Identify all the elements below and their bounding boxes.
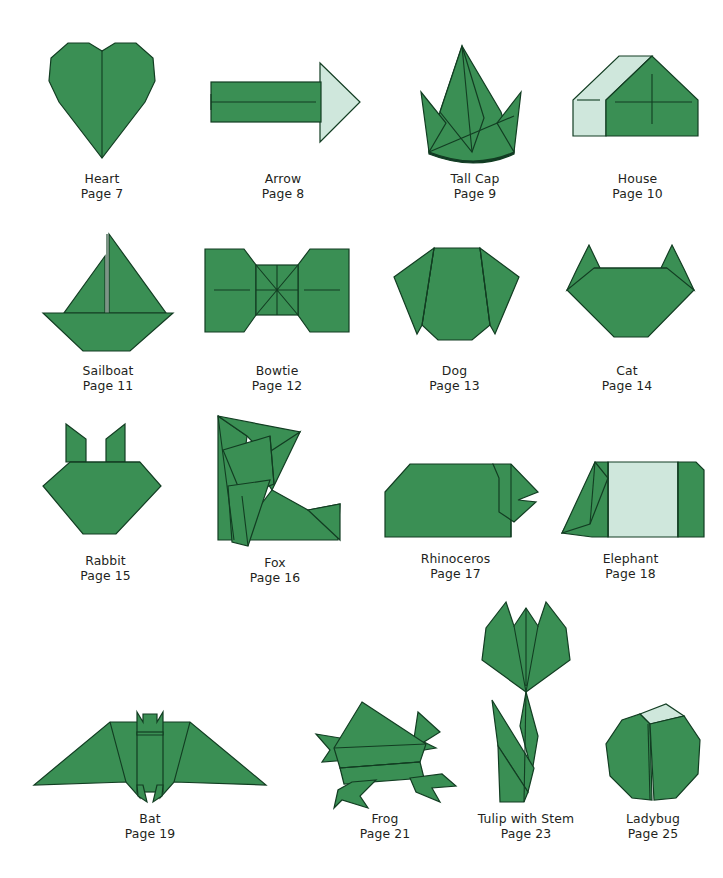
model-name: Elephant	[603, 552, 659, 566]
caption-bowtie: Bowtie Page 12	[252, 364, 302, 394]
model-name: Sailboat	[82, 364, 133, 378]
model-page: Page 23	[478, 827, 574, 841]
model-card-arrow[interactable]: Arrow Page 8	[198, 30, 368, 202]
model-name: Dog	[429, 364, 479, 378]
model-card-frog[interactable]: Frog Page 21	[300, 690, 470, 842]
elephant-origami-icon	[548, 440, 713, 550]
model-name: Rhinoceros	[421, 552, 491, 566]
model-name: Fox	[250, 556, 300, 570]
model-name: Tall Cap	[451, 172, 500, 186]
model-page: Page 7	[81, 187, 123, 201]
caption-cat: Cat Page 14	[602, 364, 652, 394]
model-page: Page 9	[451, 187, 500, 201]
model-card-heart[interactable]: Heart Page 7	[22, 30, 182, 202]
caption-heart: Heart Page 7	[81, 172, 123, 202]
caption-frog: Frog Page 21	[360, 812, 410, 842]
caption-rhinoceros: Rhinoceros Page 17	[421, 552, 491, 582]
caption-tulip: Tulip with Stem Page 23	[478, 812, 574, 842]
model-card-house[interactable]: House Page 10	[555, 30, 720, 202]
model-page: Page 8	[262, 187, 304, 201]
model-name: Bat	[125, 812, 175, 826]
model-page: Page 14	[602, 379, 652, 393]
frog-origami-icon	[300, 690, 470, 810]
model-page: Page 12	[252, 379, 302, 393]
caption-bat: Bat Page 19	[125, 812, 175, 842]
rhinoceros-origami-icon	[368, 440, 543, 550]
cat-origami-icon	[542, 222, 712, 362]
model-name: Frog	[360, 812, 410, 826]
model-name: Tulip with Stem	[478, 812, 574, 826]
caption-house: House Page 10	[612, 172, 662, 202]
bowtie-origami-icon	[192, 222, 362, 362]
model-name: Bowtie	[252, 364, 302, 378]
arrow-origami-icon	[198, 30, 368, 170]
fox-origami-icon	[190, 404, 360, 554]
model-card-fox[interactable]: Fox Page 16	[190, 404, 360, 586]
heart-origami-icon	[32, 30, 172, 170]
model-card-ladybug[interactable]: Ladybug Page 25	[588, 690, 718, 842]
model-card-dog[interactable]: Dog Page 13	[372, 222, 537, 394]
model-card-rhinoceros[interactable]: Rhinoceros Page 17	[368, 440, 543, 582]
origami-contents-page: Heart Page 7 Arrow Page 8 Tall Cap Page	[0, 0, 723, 878]
model-card-elephant[interactable]: Elephant Page 18	[548, 440, 713, 582]
dog-origami-icon	[372, 222, 537, 362]
caption-elephant: Elephant Page 18	[603, 552, 659, 582]
model-card-tall-cap[interactable]: Tall Cap Page 9	[400, 30, 550, 202]
model-name: Cat	[602, 364, 652, 378]
model-card-sailboat[interactable]: Sailboat Page 11	[18, 222, 198, 394]
caption-dog: Dog Page 13	[429, 364, 479, 394]
bat-origami-icon	[10, 690, 290, 810]
model-page: Page 21	[360, 827, 410, 841]
model-card-bat[interactable]: Bat Page 19	[10, 690, 290, 842]
ladybug-origami-icon	[588, 690, 718, 810]
tall-cap-origami-icon	[400, 30, 550, 170]
caption-rabbit: Rabbit Page 15	[80, 554, 130, 584]
caption-sailboat: Sailboat Page 11	[82, 364, 133, 394]
house-origami-icon	[555, 30, 720, 170]
model-card-cat[interactable]: Cat Page 14	[542, 222, 712, 394]
model-card-rabbit[interactable]: Rabbit Page 15	[18, 412, 193, 584]
model-page: Page 11	[82, 379, 133, 393]
model-page: Page 15	[80, 569, 130, 583]
model-page: Page 13	[429, 379, 479, 393]
caption-fox: Fox Page 16	[250, 556, 300, 586]
model-card-tulip[interactable]: Tulip with Stem Page 23	[462, 596, 590, 842]
model-page: Page 10	[612, 187, 662, 201]
sailboat-origami-icon	[18, 222, 198, 362]
model-name: House	[612, 172, 662, 186]
model-name: Heart	[81, 172, 123, 186]
caption-tall-cap: Tall Cap Page 9	[451, 172, 500, 202]
model-page: Page 19	[125, 827, 175, 841]
caption-ladybug: Ladybug Page 25	[626, 812, 680, 842]
rabbit-origami-icon	[18, 412, 193, 552]
model-name: Arrow	[262, 172, 304, 186]
caption-arrow: Arrow Page 8	[262, 172, 304, 202]
model-name: Rabbit	[80, 554, 130, 568]
model-page: Page 25	[626, 827, 680, 841]
model-page: Page 16	[250, 571, 300, 585]
model-name: Ladybug	[626, 812, 680, 826]
model-card-bowtie[interactable]: Bowtie Page 12	[192, 222, 362, 394]
model-page: Page 18	[603, 567, 659, 581]
model-page: Page 17	[421, 567, 491, 581]
tulip-origami-icon	[462, 596, 590, 810]
